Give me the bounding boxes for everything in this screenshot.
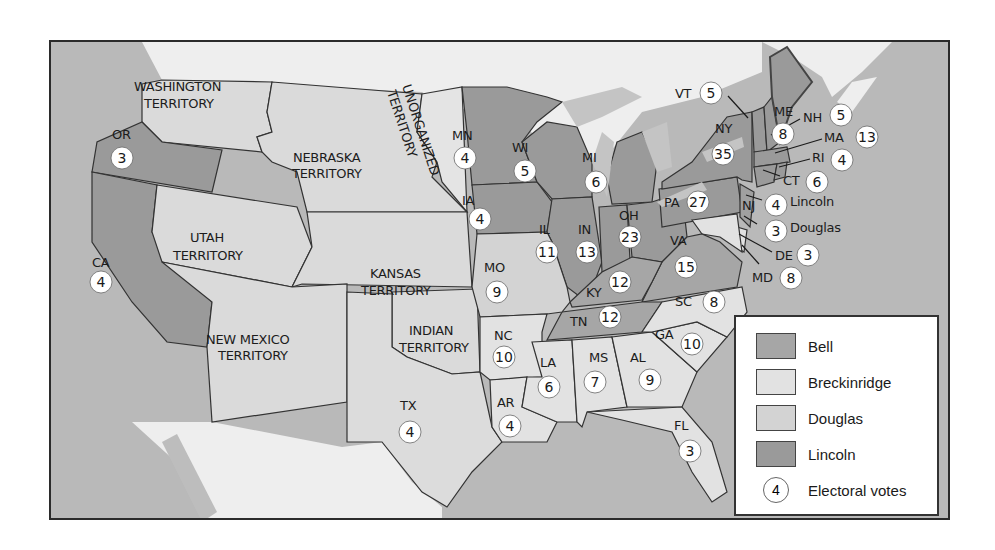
svg-text:4: 4 — [97, 274, 106, 290]
legend-label: Breckinridge — [808, 374, 891, 391]
svg-text:TERRITORY: TERRITORY — [291, 166, 362, 181]
ev-la: 4 — [499, 415, 521, 437]
svg-text:IL: IL — [539, 222, 551, 237]
electoral-vote-circle-icon: 4 — [763, 477, 789, 503]
svg-text:4: 4 — [406, 424, 415, 440]
legend-swatch-breckinridge — [756, 369, 796, 395]
svg-text:WASHINGTON: WASHINGTON — [134, 79, 221, 94]
svg-text:TERRITORY: TERRITORY — [143, 96, 214, 111]
svg-text:MO: MO — [484, 260, 505, 275]
svg-text:CT: CT — [783, 173, 800, 188]
ev-mi: 6 — [585, 171, 607, 193]
ev-md: 8 — [780, 267, 802, 289]
svg-text:INDIAN: INDIAN — [409, 323, 453, 338]
ev-nj-lincoln: 4 — [765, 194, 787, 216]
ev-il: 11 — [536, 241, 558, 263]
legend-item-breckinridge: Breckinridge — [756, 367, 891, 397]
legend-label: Electoral votes — [808, 482, 906, 499]
svg-text:6: 6 — [592, 174, 601, 190]
legend-label: Bell — [808, 338, 833, 355]
svg-text:6: 6 — [545, 379, 554, 395]
ev-ar: 10 — [493, 346, 515, 368]
svg-text:15: 15 — [677, 259, 695, 275]
svg-text:3: 3 — [686, 443, 695, 459]
svg-text:12: 12 — [601, 309, 619, 325]
ev-pa: 27 — [687, 191, 709, 213]
svg-text:MS: MS — [589, 350, 608, 365]
svg-text:TERRITORY: TERRITORY — [217, 348, 288, 363]
ev-al: 7 — [584, 371, 606, 393]
svg-text:3: 3 — [772, 223, 781, 239]
svg-text:UTAH: UTAH — [190, 230, 224, 245]
svg-text:GA: GA — [655, 327, 674, 342]
svg-text:TERRITORY: TERRITORY — [172, 248, 243, 263]
svg-text:OH: OH — [619, 208, 638, 223]
svg-text:FL: FL — [674, 418, 689, 433]
svg-text:27: 27 — [689, 194, 707, 210]
svg-text:OR: OR — [112, 127, 131, 142]
svg-text:KANSAS: KANSAS — [370, 266, 421, 281]
svg-text:Lincoln: Lincoln — [790, 194, 834, 209]
svg-text:SC: SC — [675, 294, 692, 309]
svg-text:MI: MI — [582, 150, 596, 165]
ev-nh: 5 — [830, 104, 852, 126]
svg-text:9: 9 — [493, 284, 502, 300]
svg-text:NEW MEXICO: NEW MEXICO — [206, 332, 289, 347]
ev-ca: 4 — [90, 271, 112, 293]
legend-label: Douglas — [808, 410, 863, 427]
svg-text:NY: NY — [715, 121, 732, 136]
svg-text:11: 11 — [538, 244, 556, 260]
svg-text:9: 9 — [646, 372, 655, 388]
svg-text:NC: NC — [494, 328, 512, 343]
svg-text:MN: MN — [452, 128, 472, 143]
ev-tn: 12 — [599, 306, 621, 328]
ev-tx: 4 — [399, 421, 421, 443]
svg-text:10: 10 — [495, 349, 513, 365]
ev-ga: 9 — [639, 369, 661, 391]
legend-swatch-douglas — [756, 405, 796, 431]
svg-text:TERRITORY: TERRITORY — [360, 283, 431, 298]
svg-text:NH: NH — [803, 110, 822, 125]
ev-ky: 12 — [609, 271, 631, 293]
svg-text:IN: IN — [578, 222, 591, 237]
svg-text:AL: AL — [630, 350, 647, 365]
svg-text:TX: TX — [399, 398, 417, 413]
svg-text:AR: AR — [497, 395, 515, 410]
svg-text:RI: RI — [812, 150, 824, 165]
svg-text:MA: MA — [824, 130, 844, 145]
svg-text:TN: TN — [569, 314, 587, 329]
svg-text:NJ: NJ — [742, 198, 755, 213]
svg-text:4: 4 — [772, 197, 781, 213]
ev-vt: 5 — [700, 82, 722, 104]
ev-ma: 13 — [856, 126, 878, 148]
svg-text:DE: DE — [775, 248, 793, 263]
legend-item-electoral-votes: 4 Electoral votes — [756, 475, 906, 505]
legend-label: Lincoln — [808, 446, 856, 463]
ev-de: 3 — [797, 244, 819, 266]
svg-text:8: 8 — [710, 294, 719, 310]
svg-text:NEBRASKA: NEBRASKA — [293, 150, 361, 165]
ev-in: 13 — [576, 241, 598, 263]
legend-item-lincoln: Lincoln — [756, 439, 856, 469]
ev-me: 8 — [772, 123, 794, 145]
ev-oh: 23 — [619, 226, 641, 248]
legend-item-bell: Bell — [756, 331, 833, 361]
legend-swatch-lincoln — [756, 441, 796, 467]
ev-or: 3 — [111, 147, 133, 169]
svg-text:VA: VA — [670, 233, 687, 248]
svg-text:KY: KY — [586, 285, 602, 300]
ev-ct: 6 — [806, 171, 828, 193]
svg-text:4: 4 — [476, 211, 485, 227]
svg-text:MD: MD — [752, 270, 773, 285]
svg-text:12: 12 — [611, 274, 629, 290]
ev-ny: 35 — [712, 143, 734, 165]
svg-text:13: 13 — [578, 244, 596, 260]
svg-text:WI: WI — [512, 140, 528, 155]
ev-va: 15 — [675, 256, 697, 278]
map-legend: Bell Breckinridge Douglas Lincoln 4 Elec… — [734, 315, 939, 516]
legend-item-douglas: Douglas — [756, 403, 863, 433]
svg-text:VT: VT — [675, 86, 692, 101]
svg-text:3: 3 — [118, 150, 127, 166]
svg-text:13: 13 — [858, 129, 876, 145]
svg-text:3: 3 — [804, 247, 813, 263]
